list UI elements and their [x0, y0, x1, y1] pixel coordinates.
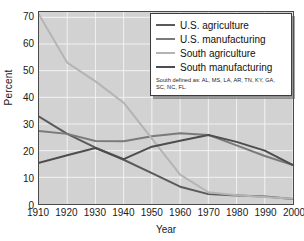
legend-label: South manufacturing	[180, 62, 272, 73]
y-tick-label: 60	[12, 38, 34, 49]
legend-entries: U.S. agricultureU.S. manufacturingSouth …	[156, 18, 286, 74]
legend-color-swatch	[156, 66, 175, 68]
y-tick-label: 50	[12, 65, 34, 76]
legend-item[interactable]: South agriculture	[156, 46, 286, 60]
legend-label: U.S. manufacturing	[180, 34, 266, 45]
legend-footnote: South defined as: AL, MS, LA, AR, TN, KY…	[156, 77, 286, 91]
legend-label: South agriculture	[180, 48, 256, 59]
y-tick-label: 40	[12, 92, 34, 103]
x-axis-tick-labels: 1910192019301940195019601970198019902000	[38, 207, 294, 221]
y-tick-label: 30	[12, 119, 34, 130]
chart-legend: U.S. agricultureU.S. manufacturingSouth …	[150, 13, 292, 96]
legend-item[interactable]: U.S. manufacturing	[156, 32, 286, 46]
y-axis-tick-labels: 010203040506070	[12, 0, 34, 241]
legend-color-swatch	[156, 38, 175, 40]
x-tick-label: 2000	[274, 207, 304, 218]
legend-color-swatch	[156, 52, 175, 54]
y-tick-label: 10	[12, 173, 34, 184]
legend-label: U.S. agriculture	[180, 20, 249, 31]
chart-figure: Percent 010203040506070 1910192019301940…	[0, 0, 304, 241]
legend-item[interactable]: South manufacturing	[156, 60, 286, 74]
legend-color-swatch	[156, 24, 175, 26]
y-tick-label: 20	[12, 146, 34, 157]
y-tick-label: 70	[12, 11, 34, 22]
legend-item[interactable]: U.S. agriculture	[156, 18, 286, 32]
x-axis-title: Year	[38, 224, 294, 235]
